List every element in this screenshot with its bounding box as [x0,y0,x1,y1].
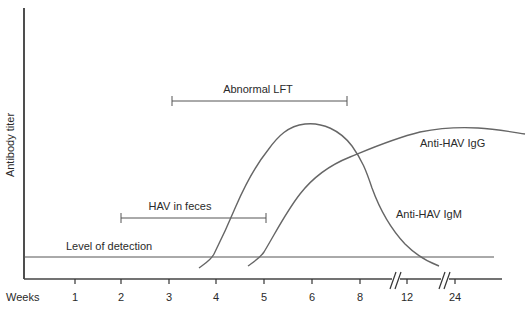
tick-label: 3 [166,291,172,303]
tick-label: 4 [213,291,219,303]
hav-feces-label: HAV in feces [149,200,212,212]
igg-label: Anti-HAV IgG [420,137,485,149]
hav-feces-bar [121,213,266,223]
x-axis-label: Weeks [6,291,40,303]
tick-label: 24 [449,291,461,303]
tick-label: 5 [261,291,267,303]
tick-label: 2 [118,291,124,303]
tick-label: 8 [357,291,363,303]
y-axis-label: Antibody titer [4,113,16,178]
igm-curve [199,124,439,268]
tick-label: 6 [309,291,315,303]
hav-serology-chart: Antibody titer Weeks 1 2 3 4 5 6 8 12 24… [0,0,531,310]
abnormal-lft-bar [172,96,347,106]
tick-label: 1 [72,291,78,303]
abnormal-lft-label: Abnormal LFT [223,83,293,95]
tick-label: 12 [401,291,413,303]
igm-label: Anti-HAV IgM [396,208,462,220]
detection-label: Level of detection [66,240,152,252]
